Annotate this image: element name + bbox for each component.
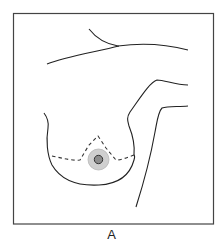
arm-lower-contour — [136, 106, 188, 207]
breast-outline — [44, 113, 135, 185]
clavicle-line — [89, 29, 188, 50]
diagram-canvas — [0, 0, 223, 245]
breast-reduction-diagram: A — [0, 0, 223, 245]
figure-caption: A — [0, 227, 223, 243]
chest-wall-line — [47, 46, 119, 64]
nipple — [94, 155, 102, 163]
